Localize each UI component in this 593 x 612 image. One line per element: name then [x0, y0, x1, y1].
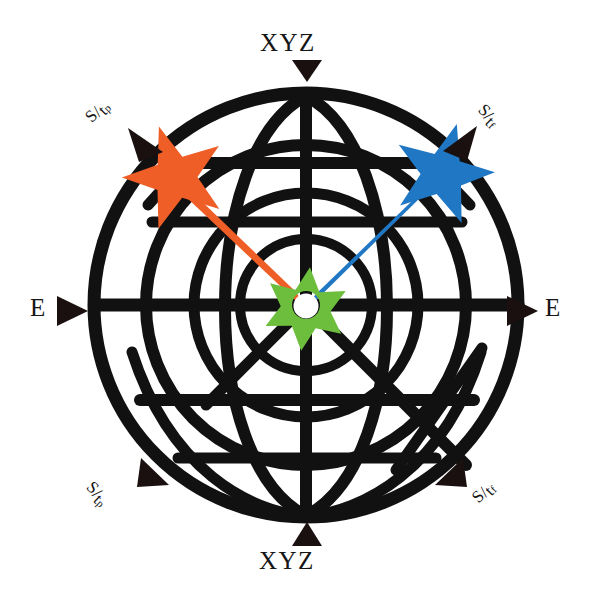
globe-diagram	[0, 0, 593, 612]
figure-canvas: XYZ XYZ E E S/tp S/tf S/tp S/tf	[0, 0, 593, 612]
green-star-hole	[294, 294, 319, 319]
label-xyz-top: XYZ	[260, 30, 316, 55]
label-e-left: E	[30, 295, 45, 320]
arrow-xyz-bottom-icon	[292, 522, 322, 546]
arrow-e-left-icon	[57, 296, 88, 326]
arrow-xyz-top-icon	[292, 60, 322, 82]
label-xyz-bottom: XYZ	[259, 548, 315, 573]
label-e-right: E	[545, 295, 560, 320]
